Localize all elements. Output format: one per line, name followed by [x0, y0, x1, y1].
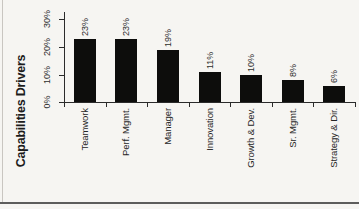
bar-value-label: 6%: [330, 69, 339, 82]
x-axis-tick: [230, 102, 231, 107]
x-axis-tick: [147, 102, 148, 107]
page-bottom-rule: [0, 202, 359, 204]
bar-value-label: 10%: [247, 53, 256, 71]
bar: [115, 39, 137, 102]
y-axis-tick: [59, 47, 64, 48]
bar: [74, 39, 96, 102]
bar-value-label: 23%: [122, 18, 131, 36]
category-label: Strategy & Dir.: [329, 108, 339, 168]
x-axis-tick: [64, 102, 65, 107]
y-axis-tick: [59, 75, 64, 76]
y-axis-line: [64, 12, 65, 102]
category-label: Perf. Mgmt.: [122, 108, 132, 156]
bar: [157, 50, 179, 102]
category-label: Sr. Mgmt.: [288, 108, 298, 148]
x-axis-tick: [189, 102, 190, 107]
y-axis-tick-label: 10%: [43, 65, 52, 83]
y-axis-tick-label: 30%: [43, 10, 52, 28]
bar: [323, 86, 345, 103]
category-label: Growth & Dev.: [246, 108, 256, 168]
scanned-chart-figure: Capabilities Drivers 0%10%20%30%23%Teamw…: [0, 0, 359, 209]
plot-area: 0%10%20%30%23%Teamwork23%Perf. Mgmt.19%M…: [0, 0, 359, 209]
category-label: Manager: [163, 108, 173, 145]
bar-value-label: 19%: [163, 29, 172, 47]
x-axis-tick: [106, 102, 107, 107]
bar: [240, 75, 262, 103]
y-axis-tick: [59, 19, 64, 20]
y-axis-tick-label: 0%: [43, 95, 52, 108]
y-axis-tick-label: 20%: [43, 38, 52, 56]
x-axis-line: [64, 102, 355, 103]
category-label: Teamwork: [80, 108, 90, 151]
bar-value-label: 11%: [205, 51, 214, 68]
category-label: Innovation: [205, 108, 215, 151]
x-axis-tick: [313, 102, 314, 107]
x-axis-tick: [272, 102, 273, 107]
bar-value-label: 8%: [288, 64, 297, 77]
x-axis-tick: [355, 102, 356, 107]
bar: [282, 80, 304, 102]
bar: [199, 72, 221, 102]
bar-value-label: 23%: [80, 18, 89, 36]
